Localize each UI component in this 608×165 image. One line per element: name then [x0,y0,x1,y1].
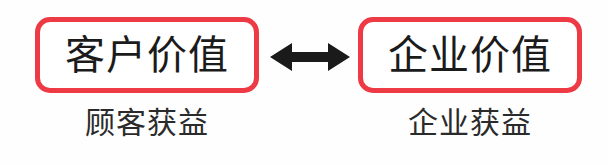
double-headed-arrow-icon [268,40,352,74]
value-box-customer-value: 客户价值 [35,17,259,93]
value-box-label-enterprise-value: 企业价值 [388,35,552,75]
value-box-enterprise-value: 企业价值 [358,17,582,93]
caption-customer-benefit: 顾客获益 [22,104,272,142]
diagram-column-left: 客户价值 顾客获益 [22,0,274,165]
diagram-column-right: 企业价值 企业获益 [345,0,597,165]
double-headed-arrow-svg [268,40,352,74]
value-box-label-customer-value: 客户价值 [65,35,229,75]
caption-enterprise-benefit: 企业获益 [345,104,595,142]
relationship-diagram: 客户价值 顾客获益 企业价值 企业获益 [0,0,608,165]
